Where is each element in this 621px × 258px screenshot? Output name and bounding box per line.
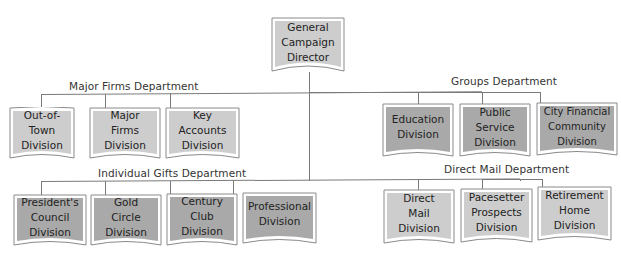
division-label: Professional Division bbox=[242, 192, 317, 236]
retirement-home-division-box: Retirement Home Division bbox=[537, 186, 612, 241]
division-label: Century Club Division bbox=[166, 193, 238, 239]
division-label: Key Accounts Division bbox=[165, 107, 240, 153]
groups-department-label: Groups Department bbox=[451, 75, 557, 87]
education-division-box: Education Division bbox=[382, 103, 454, 157]
direct-mail-bus-line bbox=[482, 179, 542, 180]
drop-line bbox=[105, 94, 106, 108]
upper-bus-line-right bbox=[309, 92, 482, 93]
division-label: Pacesetter Prospects Division bbox=[460, 188, 533, 236]
pacesetter-prospects-division-box: Pacesetter Prospects Division bbox=[460, 188, 533, 243]
out-of-town-division-box: Out-of- Town Division bbox=[9, 107, 75, 159]
division-label: Out-of- Town Division bbox=[9, 107, 75, 153]
drop-line bbox=[520, 180, 521, 181]
public-service-division-box: Public Service Division bbox=[459, 103, 531, 157]
division-label: City Financial Community Division bbox=[536, 102, 618, 150]
groups-bus-line bbox=[482, 92, 540, 93]
major-firms-department-label: Major Firms Department bbox=[69, 80, 199, 92]
division-label: Education Division bbox=[382, 103, 454, 151]
gold-circle-division-box: Gold Circle Division bbox=[90, 194, 162, 246]
general-campaign-director-box: General Campaign Director bbox=[271, 17, 345, 73]
org-chart: Major Firms Department Groups Department… bbox=[0, 0, 621, 258]
key-accounts-division-box: Key Accounts Division bbox=[165, 107, 240, 159]
century-club-division-box: Century Club Division bbox=[166, 193, 238, 246]
drop-line bbox=[105, 181, 106, 195]
division-label: Direct Mail Division bbox=[383, 189, 455, 237]
trunk-line bbox=[309, 72, 310, 181]
drop-line bbox=[170, 93, 171, 108]
presidents-council-division-box: President's Council Division bbox=[13, 194, 87, 246]
drop-line bbox=[41, 181, 42, 195]
drop-line bbox=[41, 94, 42, 108]
professional-division-box: Professional Division bbox=[242, 192, 317, 244]
direct-mail-department-label: Direct Mail Department bbox=[444, 163, 569, 175]
director-title: General Campaign Director bbox=[271, 17, 345, 67]
division-label: Gold Circle Division bbox=[90, 194, 162, 240]
division-label: Public Service Division bbox=[459, 103, 531, 151]
division-label: Major Firms Division bbox=[89, 107, 161, 153]
direct-mail-division-box: Direct Mail Division bbox=[383, 189, 455, 244]
individual-gifts-department-label: Individual Gifts Department bbox=[98, 167, 246, 179]
division-label: President's Council Division bbox=[13, 194, 87, 240]
division-label: Retirement Home Division bbox=[537, 186, 612, 234]
major-firms-division-box: Major Firms Division bbox=[89, 107, 161, 159]
lower-bus-line bbox=[41, 178, 520, 182]
city-financial-community-division-box: City Financial Community Division bbox=[536, 102, 618, 156]
